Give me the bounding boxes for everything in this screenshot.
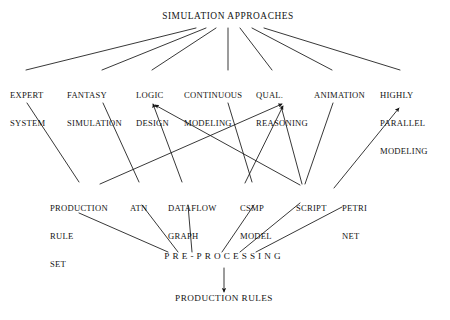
node-simulation-approaches[interactable]: SIMULATION APPROACHES [148, 12, 308, 21]
edge-root-to-fantasy-simulation [102, 28, 206, 70]
node-atn-line1: ATN [130, 204, 160, 213]
node-qual-reasoning-line1: QUAL. [256, 91, 318, 100]
node-fantasy-simulation-line1: FANTASY [67, 91, 137, 100]
node-csmp-model[interactable]: CSMP MODEL [240, 185, 284, 260]
node-expert-system-line1: EXPERT [10, 91, 70, 100]
node-production-rule-set-line2: RULE [50, 232, 122, 241]
node-dataflow-graph-line1: DATAFLOW [168, 204, 224, 213]
node-expert-system[interactable]: EXPERT SYSTEM [10, 72, 70, 147]
edge-root-to-logic-design [152, 28, 216, 70]
node-atn[interactable]: ATN [130, 185, 160, 232]
node-dataflow-graph[interactable]: DATAFLOW GRAPH [168, 185, 224, 260]
node-continuous-modeling[interactable]: CONTINUOUS MODELING [184, 72, 254, 147]
node-dataflow-graph-line2: GRAPH [168, 232, 224, 241]
node-logic-design-line1: LOGIC [136, 91, 182, 100]
edge-root-to-expert-system [26, 28, 196, 70]
node-highly-parallel-modeling-line3: MODELING [380, 147, 444, 156]
node-fantasy-simulation-line2: SIMULATION [67, 119, 137, 128]
node-expert-system-line2: SYSTEM [10, 119, 70, 128]
edge-root-to-highly-parallel-modeling [264, 28, 400, 70]
node-production-rules[interactable]: PRODUCTION RULES [154, 294, 294, 303]
node-logic-design[interactable]: LOGIC DESIGN [136, 72, 182, 147]
edges-root-to-approaches [26, 28, 400, 70]
node-pre-processing[interactable]: PRE-PROCESSING [144, 252, 304, 261]
node-production-rule-set-line1: PRODUCTION [50, 204, 122, 213]
node-petri-net[interactable]: PETRI NET [342, 185, 378, 260]
node-petri-net-line1: PETRI [342, 204, 378, 213]
node-continuous-modeling-line1: CONTINUOUS [184, 91, 254, 100]
node-script[interactable]: SCRIPT [296, 185, 336, 232]
node-petri-net-line2: NET [342, 232, 378, 241]
node-continuous-modeling-line2: MODELING [184, 119, 254, 128]
node-animation-line1: ANIMATION [314, 91, 374, 100]
node-fantasy-simulation[interactable]: FANTASY SIMULATION [67, 72, 137, 147]
edge-root-to-qual-reasoning [240, 28, 272, 70]
node-logic-design-line2: DESIGN [136, 119, 182, 128]
node-highly-parallel-modeling-line2: PARALLEL [380, 119, 444, 128]
edge-root-to-animation [252, 28, 332, 70]
node-csmp-model-line2: MODEL [240, 232, 284, 241]
node-csmp-model-line1: CSMP [240, 204, 284, 213]
node-animation[interactable]: ANIMATION [314, 72, 374, 119]
node-qual-reasoning-line2: REASONING [256, 119, 318, 128]
node-script-line1: SCRIPT [296, 204, 336, 213]
node-production-rule-set-line3: SET [50, 260, 122, 269]
node-highly-parallel-modeling-line1: HIGHLY [380, 91, 444, 100]
node-highly-parallel-modeling[interactable]: HIGHLY PARALLEL MODELING [380, 72, 444, 175]
node-production-rule-set[interactable]: PRODUCTION RULE SET [50, 185, 122, 288]
diagram-canvas: SIMULATION APPROACHES EXPERT SYSTEM FANT… [0, 0, 450, 320]
node-qual-reasoning[interactable]: QUAL. REASONING [256, 72, 318, 147]
